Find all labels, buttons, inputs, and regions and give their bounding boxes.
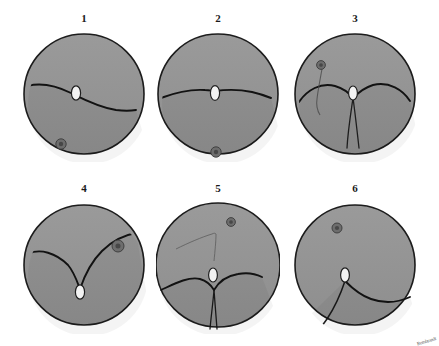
fundus-drawing-1 [22,26,146,162]
fundus-drawing-6 [293,196,417,334]
artist-signature: Rembrandt [417,336,437,346]
fundus-drawing-2 [156,26,280,162]
fundus-panel-1: 1 [22,12,146,162]
optic-disc [209,268,218,282]
macula-spot [227,218,236,227]
panel-label-5: 5 [156,182,280,194]
fundus-drawing-3 [293,26,417,162]
panel-label-3: 3 [293,12,417,24]
panel-label-1: 1 [22,12,146,24]
panel-label-2: 2 [156,12,280,24]
optic-disc [341,268,350,282]
fundus-drawing-5 [156,196,280,334]
optic-disc [349,86,358,100]
optic-disc [210,86,219,101]
fundus-panel-4: 4 [22,182,146,334]
optic-disc [71,86,80,100]
panel-label-4: 4 [22,182,146,194]
macula-spot [332,223,342,233]
fundus-drawing-4 [22,196,146,334]
macula-spot [211,147,221,157]
fundus-panel-5: 5 [156,182,280,334]
fundus-panel-3: 3 [293,12,417,162]
fundus-panel-6: 6 [293,182,417,334]
fundus-panel-2: 2 [156,12,280,162]
panel-label-6: 6 [293,182,417,194]
optic-disc [75,285,84,299]
macula-spot [317,61,326,70]
macula-spot [112,240,124,252]
macula-spot [56,139,66,149]
